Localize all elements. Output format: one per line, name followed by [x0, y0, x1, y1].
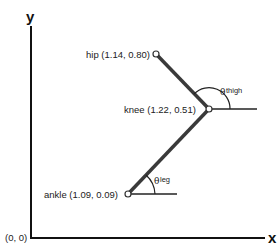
thigh-segment: [157, 55, 209, 109]
origin-label: (0, 0): [5, 232, 27, 243]
leg-kinematics-diagram: y x (0, 0) hip (1.14, 0.80) knee (1.22, …: [0, 0, 279, 250]
ankle-label: ankle (1.09, 0.09): [44, 189, 118, 200]
hip-label: hip (1.14, 0.80): [86, 49, 150, 60]
hip-joint: [153, 51, 159, 57]
knee-joint: [206, 106, 212, 112]
y-axis-label: y: [26, 8, 35, 25]
thigh-angle-subscript: thigh: [226, 86, 242, 95]
x-axis-label: x: [268, 229, 277, 246]
ankle-joint: [125, 191, 131, 197]
thigh-angle-symbol: θ: [220, 87, 225, 97]
leg-angle-subscript: leg: [160, 175, 170, 184]
leg-angle-symbol: θ: [154, 176, 159, 186]
knee-label: knee (1.22, 0.51): [124, 104, 196, 115]
